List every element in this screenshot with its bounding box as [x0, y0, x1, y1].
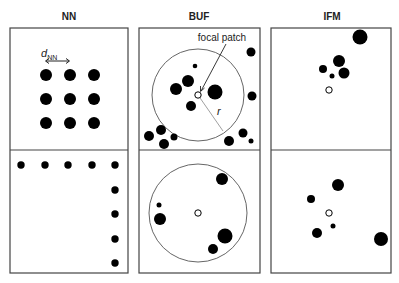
- panel-buf-bottom: [149, 164, 247, 262]
- focal-patch: [195, 210, 201, 216]
- patch: [330, 74, 335, 79]
- patch: [307, 195, 315, 203]
- panel-nn-bottom: [17, 161, 118, 266]
- patch: [339, 68, 350, 79]
- patch: [218, 229, 233, 244]
- patch: [319, 65, 327, 73]
- column-title-ifm: IFM: [323, 11, 340, 22]
- patch: [88, 69, 100, 81]
- patch: [64, 93, 76, 105]
- patch: [193, 64, 198, 69]
- patch: [182, 75, 194, 87]
- patch: [41, 161, 48, 168]
- panel-ifm-bottom: [307, 179, 388, 246]
- patch: [157, 203, 162, 208]
- patch: [154, 213, 166, 225]
- patch: [159, 139, 169, 149]
- patch: [40, 117, 52, 129]
- patch: [64, 117, 76, 129]
- panel-ifm-top: [319, 30, 368, 94]
- patch: [239, 129, 248, 138]
- focal-patch: [195, 92, 201, 98]
- patch: [40, 69, 52, 81]
- patch: [374, 232, 388, 246]
- patch: [224, 136, 234, 146]
- column-title-buf: BUF: [189, 11, 210, 22]
- patch: [186, 101, 196, 111]
- focal-patch: [326, 87, 332, 93]
- patch: [88, 93, 100, 105]
- patch: [331, 224, 336, 229]
- patch: [156, 125, 166, 135]
- panel-frames: [10, 28, 391, 273]
- patch: [216, 173, 228, 185]
- patch: [248, 92, 257, 101]
- patch: [312, 228, 322, 238]
- patch: [171, 134, 178, 141]
- patch: [111, 210, 118, 217]
- figure-canvas: NN BUF IFM dNN: [0, 0, 399, 283]
- panel-buf-top: r focal patch: [144, 32, 257, 149]
- focal-patch-label: focal patch: [198, 32, 246, 43]
- panel-nn-top: dNN: [40, 47, 100, 129]
- radius-label: r: [217, 105, 222, 117]
- patch: [111, 186, 118, 193]
- patch: [353, 30, 368, 45]
- patch: [170, 83, 182, 95]
- patch: [208, 244, 218, 254]
- patch: [88, 161, 95, 168]
- patch-grid: [40, 69, 100, 129]
- patch: [333, 55, 345, 67]
- patch: [208, 85, 223, 100]
- patch: [249, 139, 254, 144]
- distance-label-sub: NN: [47, 54, 57, 61]
- patch: [17, 161, 24, 168]
- column-title-nn: NN: [62, 11, 76, 22]
- focal-patch: [326, 210, 332, 216]
- patch: [111, 235, 118, 242]
- patch: [111, 161, 118, 168]
- patch: [332, 179, 344, 191]
- patch: [111, 259, 118, 266]
- patch: [40, 93, 52, 105]
- patch: [144, 131, 154, 141]
- patch: [64, 161, 71, 168]
- patch: [247, 48, 256, 57]
- patch: [64, 69, 76, 81]
- patch: [88, 117, 100, 129]
